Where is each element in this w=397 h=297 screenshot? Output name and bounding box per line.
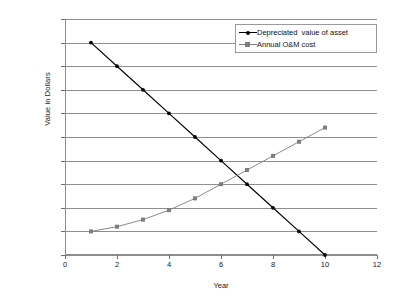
legend-item-depreciated-value[interactable]: Depreciated value of asset — [239, 27, 373, 39]
chart-container: Value in Dollars 010,00020,00030,00040,0… — [0, 0, 397, 297]
x-axis-tick-label: 8 — [261, 260, 285, 269]
x-axis-tick — [221, 255, 222, 259]
data-point-marker — [219, 159, 223, 163]
data-point-marker — [141, 218, 145, 222]
data-point-marker — [297, 230, 301, 234]
x-axis-tick — [377, 255, 378, 259]
series-layer — [65, 19, 377, 255]
legend-marker-diamond-icon — [239, 28, 257, 38]
y-axis-title: Value in Dollars — [43, 51, 57, 147]
data-point-marker — [115, 225, 119, 229]
data-point-marker — [141, 88, 145, 92]
legend-item-label: Depreciated value of asset — [257, 28, 348, 38]
data-point-marker — [323, 253, 327, 257]
series-line — [91, 128, 325, 232]
x-axis-tick-label: 10 — [313, 260, 337, 269]
x-axis-tick — [273, 255, 274, 259]
data-point-marker — [167, 208, 171, 212]
data-point-marker — [167, 112, 171, 116]
x-axis-tick-label: 4 — [157, 260, 181, 269]
data-point-marker — [271, 206, 275, 210]
series-line — [91, 43, 325, 255]
x-axis-tick — [169, 255, 170, 259]
x-axis-tick-label: 0 — [53, 260, 77, 269]
plot-area: 010,00020,00030,00040,00050,00060,00070,… — [65, 19, 377, 255]
data-point-marker — [89, 41, 93, 45]
x-axis-tick — [117, 255, 118, 259]
data-point-marker — [89, 229, 93, 233]
legend-marker-square-icon — [239, 40, 257, 50]
data-point-marker — [297, 140, 301, 144]
data-point-marker — [115, 64, 119, 68]
x-axis-tick — [65, 255, 66, 259]
data-point-marker — [271, 154, 275, 158]
data-point-marker — [245, 168, 249, 172]
data-point-marker — [219, 182, 223, 186]
legend-item-annual-om-cost[interactable]: Annual O&M cost — [239, 39, 373, 51]
x-axis-title: Year — [65, 281, 377, 290]
data-point-marker — [245, 182, 249, 186]
legend-item-label: Annual O&M cost — [257, 40, 315, 50]
x-axis-tick-label: 12 — [365, 260, 389, 269]
data-point-marker — [323, 126, 327, 130]
x-axis-tick-label: 2 — [105, 260, 129, 269]
chart-legend: Depreciated value of asset Annual O&M co… — [235, 24, 377, 53]
data-point-marker — [193, 135, 197, 139]
x-axis-tick-label: 6 — [209, 260, 233, 269]
data-point-marker — [193, 196, 197, 200]
